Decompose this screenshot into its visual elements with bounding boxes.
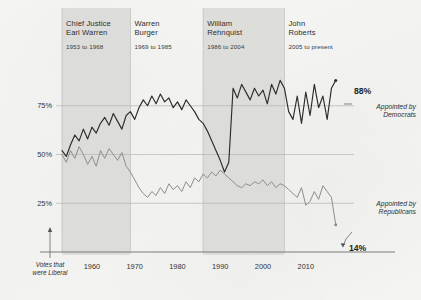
x-axis-tick-2010: 2010	[286, 262, 326, 271]
era-rehnquist-years: 1986 to 2004	[207, 43, 244, 50]
x-axis-tick-2000: 2000	[243, 262, 283, 271]
y-axis-tick-25: 25%	[18, 199, 52, 208]
series-endpoint-democrats	[334, 79, 337, 82]
y-note-arrow-head	[48, 227, 52, 232]
democrats-series-label: Appointed by Democrats	[340, 103, 416, 120]
era-warren-title: Chief Justice Earl Warren	[66, 19, 111, 37]
era-warren-years: 1953 to 1968	[66, 43, 103, 50]
era-burger-title: Warren Burger	[134, 19, 159, 37]
y-axis-tick-75: 75%	[18, 101, 52, 110]
era-burger-years: 1969 to 1985	[134, 43, 171, 50]
era-roberts-title: John Roberts	[288, 19, 315, 37]
leader-arrow-republicans	[341, 243, 346, 247]
republicans-series-label: Appointed by Republicans	[340, 200, 416, 217]
x-axis-tick-1990: 1990	[200, 262, 240, 271]
series-endpoint-republicans	[334, 223, 337, 226]
era-rehnquist-title: William Rehnquist	[207, 19, 242, 37]
y-axis-tick-50: 50%	[18, 150, 52, 159]
democrats-end-value: 88%	[354, 86, 371, 96]
x-axis-tick-1970: 1970	[115, 262, 155, 271]
republicans-end-value: 14%	[349, 243, 366, 253]
y-axis-note: Votes that were Liberal	[20, 261, 80, 277]
x-axis-tick-1980: 1980	[157, 262, 197, 271]
era-roberts-years: 2005 to present	[288, 43, 333, 50]
